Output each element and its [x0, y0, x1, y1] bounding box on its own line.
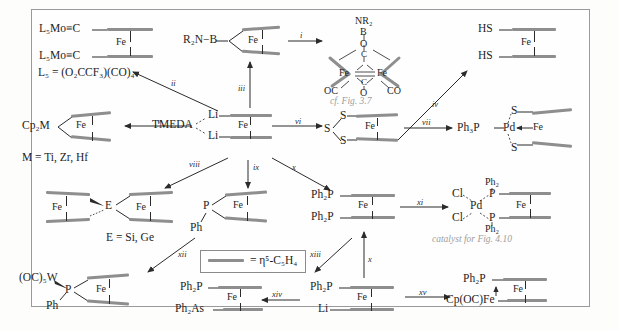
w-phosphine-label: (OC)₅W: [19, 272, 58, 284]
pd-dithiolate-phosphine: Ph₃P: [457, 122, 480, 134]
arrow-label-i: i: [300, 31, 302, 40]
pdcl2dppf-metal: Fe: [516, 200, 526, 210]
w-phosphine-p: P: [65, 284, 71, 296]
cp2m-label: Cp₂M: [22, 120, 50, 132]
dithiol-metal: Fe: [521, 37, 531, 47]
cp-bar: [223, 308, 263, 311]
dppf-metal: Fe: [358, 200, 368, 210]
cp-tick: [371, 289, 372, 297]
mo-carbyne-footnote: L₅ = (O₂CCF₃)(CO)₄: [38, 67, 135, 79]
cp-tick: [530, 195, 531, 204]
legend-text: = η⁵-C₅H₄: [250, 255, 297, 267]
note-catalyst: catalyst for Fig. 4.10: [432, 235, 512, 245]
arrow-label-ii: ii: [171, 79, 176, 88]
pdcl2dppf-cl-top: Cl: [452, 188, 463, 200]
dppf-top-label: Ph₂P: [311, 189, 334, 201]
diiron-co-right: CO: [387, 86, 401, 96]
diiron-oxygen-top: O: [360, 39, 367, 49]
mo-carbyne-bottom-label: L₅Mo≡C: [39, 50, 80, 62]
cp-tick: [534, 31, 535, 42]
cp-tick: [66, 212, 67, 221]
cp-tick: [371, 303, 372, 311]
pdcl2dppf-pd: Pd: [470, 200, 482, 212]
cp-tick: [150, 196, 151, 206]
p-as-bottom-label: Ph₂As: [175, 303, 204, 315]
arrow-label-vi: vi: [295, 117, 301, 126]
w-phosphine-metal: Fe: [96, 284, 106, 294]
pdcl2dppf-ph2-bottom: Ph₂: [485, 224, 499, 234]
cp-bar: [507, 299, 547, 302]
dppf-bottom-label: Ph₂P: [311, 211, 334, 223]
pd-dithiolate-pd: Pd: [503, 122, 515, 134]
sila-fe-left: Fe: [52, 202, 62, 212]
w-phosphine-ph: Ph: [46, 300, 58, 312]
legend-box: = η⁵-C₅H₄: [200, 250, 306, 273]
dilithio-bottom-label: Li: [208, 130, 218, 142]
mo-carbyne-top-label: L₅Mo≡C: [39, 23, 80, 35]
arrow-label-iv: iv: [432, 100, 438, 109]
legend-cp-bar: [208, 259, 244, 262]
arrow-label-ix: ix: [253, 163, 259, 172]
arrow-label-xiii: xiii: [310, 250, 321, 259]
cp-tick: [377, 118, 378, 126]
cp-tick: [525, 295, 526, 303]
p-li-top-label: Ph₂P: [310, 281, 333, 293]
cp-tick: [247, 212, 248, 221]
cp2m-metal: Fe: [76, 120, 86, 130]
pdcl2dppf-ph2-top: Ph₂: [485, 177, 499, 187]
cp-tick: [247, 196, 248, 205]
cp-tick: [130, 31, 131, 42]
cp-tick: [250, 117, 251, 125]
cp-tick: [530, 209, 531, 218]
trisulfide-s-left: S: [324, 123, 330, 135]
p-fecp-bottom-label: Cp(OC)Fe: [446, 294, 495, 306]
mo-carbyne-metal: Fe: [116, 37, 126, 47]
pd-dithiolate-s-bottom: S: [511, 142, 517, 154]
boron-amide-metal: Fe: [248, 35, 258, 45]
pdcl2dppf-cl-bottom: Cl: [452, 212, 463, 224]
cp-tick: [525, 281, 526, 289]
trisulfide-metal: Fe: [365, 121, 375, 131]
arrow-label-viii: viii: [189, 160, 200, 169]
phosphaferrocenophane-metal: Fe: [233, 200, 243, 210]
pdcl2dppf-p-top: P: [489, 188, 495, 200]
arrow-label-xv: xv: [419, 288, 427, 297]
diiron-oc-left: OC: [324, 86, 338, 96]
arrow-label-xiv: xiv: [272, 290, 282, 299]
p-as-metal: Fe: [227, 292, 237, 302]
diiron-fe-right: Fe: [377, 68, 387, 78]
cp-tick: [372, 211, 373, 219]
figure-canvas: L₅Mo≡C L₅Mo≡C Fe L₅ = (O₂CCF₃)(CO)₄ R₂N−…: [0, 0, 619, 330]
p-fecp-top-label: Ph₂P: [463, 273, 486, 285]
trisulfide-s-bottom: S: [340, 135, 346, 147]
dilithio-top-label: Li: [208, 109, 218, 121]
cp-tick: [66, 196, 67, 206]
cp-tick: [150, 212, 151, 221]
sila-footnote: E = Si, Ge: [106, 232, 154, 244]
arrow-label-xii: xii: [178, 250, 187, 259]
pd-dithiolate-s-top: S: [511, 105, 517, 117]
arrow-label-x-top: x: [292, 163, 296, 172]
dithiol-top-label: HS: [478, 23, 493, 35]
arrow-label-iii: iii: [238, 84, 245, 93]
cp-tick: [109, 295, 110, 304]
cp-tick: [250, 131, 251, 139]
cp2m-footnote: M = Ti, Zr, Hf: [22, 152, 88, 164]
cp-tick: [534, 47, 535, 56]
cp-tick: [92, 132, 93, 141]
p-li-bottom-label: Li: [318, 303, 328, 315]
arrow-label-xi: xi: [417, 198, 423, 207]
p-as-top-label: Ph₂P: [180, 281, 203, 293]
arrow-label-v: v: [157, 117, 161, 126]
diiron-carbon-bottom: C: [361, 78, 367, 87]
cp-tick: [372, 197, 373, 205]
pdcl2dppf-p-bottom: P: [489, 212, 495, 224]
cp-tick: [130, 47, 131, 56]
diiron-apex-nr2: NR₂: [355, 16, 372, 26]
diiron-fe-left: Fe: [339, 68, 349, 78]
p-li-metal: Fe: [357, 292, 367, 302]
boron-amide-label: R₂N−B: [183, 34, 217, 46]
note-fig37: cf. Fig. 3.7: [330, 97, 371, 107]
pd-dithiolate-metal: Fe: [533, 122, 543, 132]
cp-tick: [92, 116, 93, 125]
